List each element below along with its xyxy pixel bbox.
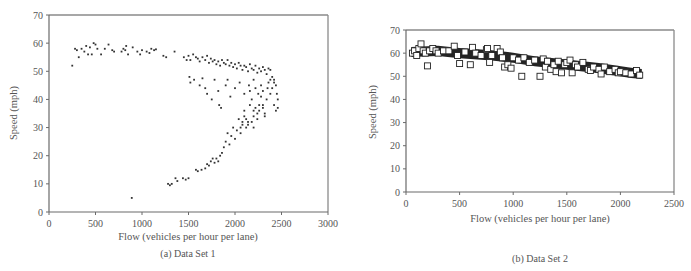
y-axis-ticks-a: 010203040506070 (33, 10, 49, 218)
y-tick-label: 70 (390, 25, 400, 36)
y-axis-title-a: Speed (mph) (8, 86, 20, 140)
x-tick-label: 2500 (664, 198, 684, 209)
caption-b: (b) Data Set 2 (512, 253, 568, 265)
y-tick-label: 30 (390, 117, 400, 128)
chart-data-set-2: 010203040506070 05001000150020002500 Flo… (367, 25, 684, 266)
x-tick-label: 2000 (610, 198, 630, 209)
y-tick-label: 40 (33, 94, 43, 105)
figure: 010203040506070 050010001500200025003000… (0, 0, 691, 271)
y-axis-title-b: Speed (mph) (367, 85, 379, 139)
x-axis-ticks-b: 05001000150020002500 (404, 192, 685, 209)
y-tick-label: 0 (38, 207, 43, 218)
x-axis-title-a: Flow (vehicles per hour per lane) (118, 231, 258, 243)
y-tick-label: 60 (33, 38, 43, 49)
y-tick-label: 10 (390, 163, 400, 174)
x-tick-label: 1000 (503, 198, 523, 209)
x-tick-label: 3000 (318, 218, 338, 229)
y-axis-ticks-b: 010203040506070 (390, 25, 406, 198)
y-tick-label: 50 (33, 66, 43, 77)
plot-area-a (49, 15, 328, 212)
y-tick-label: 0 (395, 187, 400, 198)
x-tick-label: 0 (47, 218, 52, 229)
x-tick-label: 1000 (132, 218, 152, 229)
y-tick-label: 40 (390, 94, 400, 105)
x-tick-label: 1500 (179, 218, 199, 229)
y-tick-label: 10 (33, 178, 43, 189)
y-tick-label: 20 (33, 150, 43, 161)
y-tick-label: 70 (33, 10, 43, 21)
x-tick-label: 500 (452, 198, 467, 209)
x-tick-label: 2000 (225, 218, 245, 229)
scatter-points-a (71, 42, 278, 199)
x-tick-label: 0 (404, 198, 409, 209)
x-tick-label: 2500 (272, 218, 292, 229)
caption-a: (a) Data Set 1 (160, 248, 215, 260)
x-tick-label: 1500 (557, 198, 577, 209)
y-tick-label: 20 (390, 140, 400, 151)
x-axis-title-b: Flow (vehicles per hour per lane) (470, 213, 610, 225)
x-tick-label: 500 (88, 218, 103, 229)
y-tick-label: 50 (390, 71, 400, 82)
y-tick-label: 30 (33, 122, 43, 133)
x-axis-ticks-a: 050010001500200025003000 (47, 212, 339, 229)
y-tick-label: 60 (390, 48, 400, 59)
chart-data-set-1: 010203040506070 050010001500200025003000… (8, 10, 338, 261)
